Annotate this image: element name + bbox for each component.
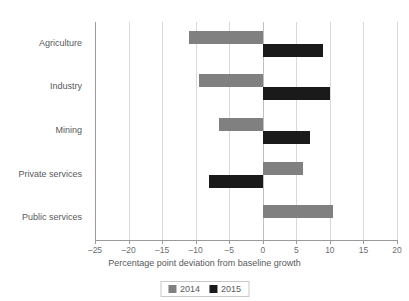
bar-private-services-2015[interactable] xyxy=(209,175,263,188)
legend-label-2014: 2014 xyxy=(180,284,200,294)
x-tick-5 xyxy=(296,240,297,244)
legend-item-2014[interactable]: 2014 xyxy=(168,284,200,294)
bar-public-services-2014[interactable] xyxy=(263,205,333,218)
bar-mining-2014[interactable] xyxy=(219,118,263,131)
plot-area xyxy=(95,22,397,240)
x-tick-15 xyxy=(363,240,364,244)
x-tick--15 xyxy=(162,240,163,244)
chart-container: AgricultureIndustryMiningPrivate service… xyxy=(0,0,409,301)
bar-private-services-2014[interactable] xyxy=(263,162,303,175)
chart-legend: 2014 2015 xyxy=(160,281,249,297)
x-tick-10 xyxy=(330,240,331,244)
x-tick--10 xyxy=(196,240,197,244)
bar-mining-2015[interactable] xyxy=(263,131,310,144)
bar-agriculture-2014[interactable] xyxy=(189,31,263,44)
gridline--20 xyxy=(129,22,130,240)
y-axis-line xyxy=(95,22,96,241)
bar-industry-2015[interactable] xyxy=(263,87,330,100)
x-axis-title: Percentage point deviation from baseline… xyxy=(0,258,409,268)
legend-swatch-2015 xyxy=(209,285,217,293)
category-label-public-services: Public services xyxy=(22,212,82,223)
legend-swatch-2014 xyxy=(168,285,176,293)
legend-item-2015[interactable]: 2015 xyxy=(209,284,241,294)
x-tick--20 xyxy=(129,240,130,244)
x-tick-0 xyxy=(263,240,264,244)
x-tick-label-20: 20 xyxy=(377,245,409,255)
category-label-industry: Industry xyxy=(50,81,82,92)
gridline--10 xyxy=(196,22,197,240)
x-axis-line xyxy=(95,240,397,241)
gridline--15 xyxy=(162,22,163,240)
gridline-15 xyxy=(363,22,364,240)
chart-title xyxy=(8,0,408,2)
category-label-private-services: Private services xyxy=(18,169,82,180)
category-axis-labels: AgricultureIndustryMiningPrivate service… xyxy=(0,22,88,240)
legend-label-2015: 2015 xyxy=(221,284,241,294)
gridline-20 xyxy=(397,22,398,240)
x-tick-20 xyxy=(397,240,398,244)
x-tick--5 xyxy=(229,240,230,244)
category-label-mining: Mining xyxy=(55,125,82,136)
bar-industry-2014[interactable] xyxy=(199,74,263,87)
bar-agriculture-2015[interactable] xyxy=(263,44,323,57)
gridline--5 xyxy=(229,22,230,240)
category-label-agriculture: Agriculture xyxy=(39,38,82,49)
x-tick--25 xyxy=(95,240,96,244)
